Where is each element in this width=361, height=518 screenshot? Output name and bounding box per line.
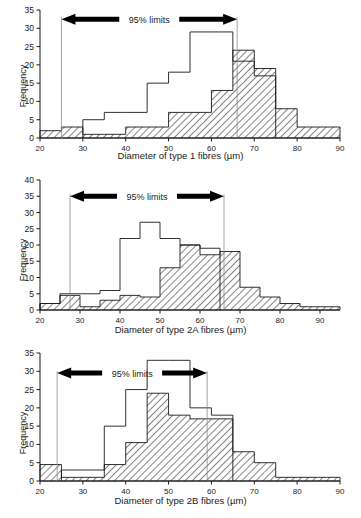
x-axis-label: Diameter of type 2B fibres (µm): [0, 495, 361, 506]
chart-panel-type-1: Frequency 051015202530352030405060708090…: [0, 0, 361, 172]
y-tick-label: 35: [25, 348, 35, 358]
y-tick-label: 0: [29, 133, 34, 143]
y-tick-label: 15: [25, 78, 35, 88]
limits-arrow-left: [70, 191, 117, 202]
x-axis-label: Diameter of type 2A fibres (µm): [0, 324, 361, 335]
y-tick-label: 25: [25, 385, 35, 395]
y-tick-label: 15: [25, 421, 35, 431]
y-tick-label: 0: [29, 476, 34, 486]
y-tick-label: 30: [25, 23, 35, 33]
y-tick-label: 10: [25, 96, 35, 106]
y-tick-label: 25: [25, 224, 35, 234]
y-tick-label: 0: [29, 305, 34, 315]
y-tick-label: 10: [25, 439, 35, 449]
plot-area-type-2b: 05101520253035203040506070809095% limits: [0, 347, 361, 518]
limits-arrow-right: [177, 191, 224, 202]
limits-annotation-label: 95% limits: [129, 15, 171, 25]
chart-panel-type-2a: Frequency 051015202530354020304050607080…: [0, 172, 361, 347]
y-tick-label: 5: [29, 458, 34, 468]
y-tick-label: 30: [25, 366, 35, 376]
x-axis-label: Diameter of type 1 fibres (µm): [0, 150, 361, 161]
y-tick-label: 20: [25, 403, 35, 413]
y-tick-label: 10: [25, 273, 35, 283]
y-tick-label: 25: [25, 42, 35, 52]
y-tick-label: 5: [29, 115, 34, 125]
y-tick-label: 35: [25, 5, 35, 15]
limits-arrow-right: [179, 14, 237, 25]
y-tick-label: 5: [29, 289, 34, 299]
chart-svg: 05101520253035203040506070809095% limits: [0, 347, 361, 518]
chart-panel-type-2b: Frequency 051015202530352030405060708090…: [0, 347, 361, 518]
limits-annotation-label: 95% limits: [112, 369, 154, 379]
histogram-figure: Frequency 051015202530352030405060708090…: [0, 0, 361, 518]
limits-arrow-left: [57, 368, 102, 379]
y-tick-label: 15: [25, 256, 35, 266]
limits-arrow-right: [162, 368, 207, 379]
y-tick-label: 20: [25, 240, 35, 250]
limits-arrow-left: [61, 14, 119, 25]
y-tick-label: 40: [25, 175, 35, 185]
y-tick-label: 20: [25, 60, 35, 70]
limits-annotation-label: 95% limits: [126, 192, 168, 202]
y-tick-label: 30: [25, 208, 35, 218]
y-tick-label: 35: [25, 191, 35, 201]
histogram-hatched: [40, 245, 340, 310]
